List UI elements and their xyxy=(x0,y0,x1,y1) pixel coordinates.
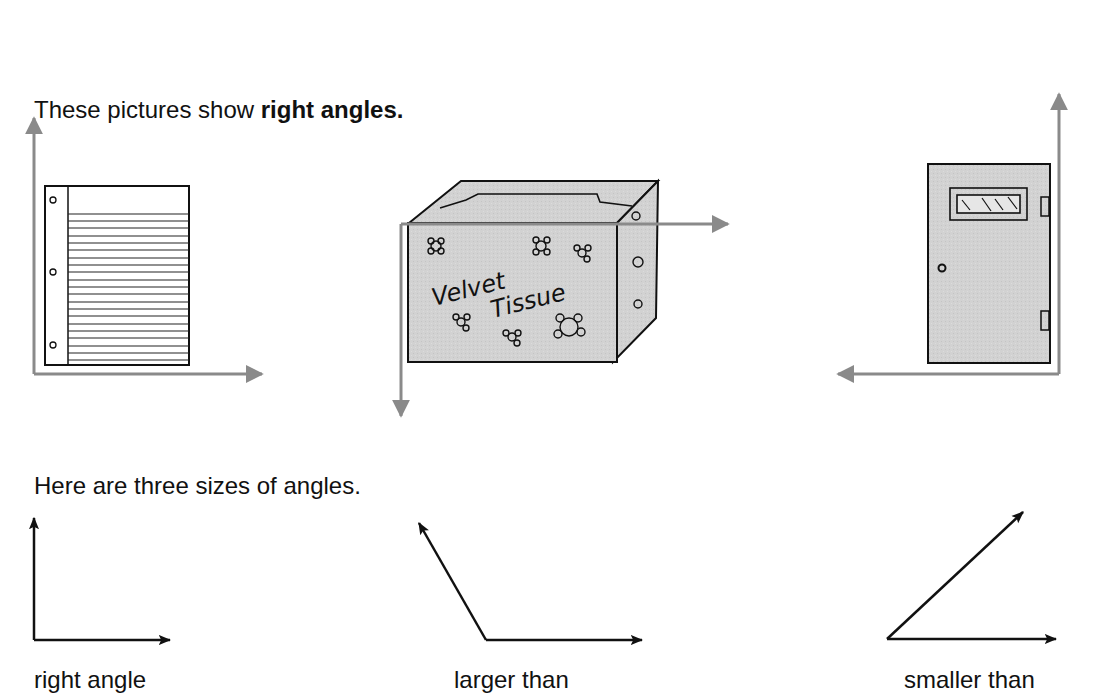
hinge-icon xyxy=(1041,311,1049,330)
hinge-icon xyxy=(1041,197,1049,216)
smaller-than-label: smaller than xyxy=(904,666,1035,694)
larger-than-label: larger than xyxy=(454,666,569,694)
right-angle-diagram xyxy=(34,518,170,640)
illustrations: Velvet Tissue xyxy=(0,0,1107,695)
smaller-angle-diagram xyxy=(887,512,1056,639)
larger-angle-diagram xyxy=(419,523,642,640)
angle-sizes-heading: Here are three sizes of angles. xyxy=(34,472,361,500)
arrow-diagonal-icon xyxy=(887,512,1023,639)
arrow-diagonal-icon xyxy=(419,523,486,640)
door-picture xyxy=(838,94,1059,374)
tissue-box-picture: Velvet Tissue xyxy=(401,181,728,416)
notebook-paper-picture xyxy=(34,118,262,374)
right-angle-label: right angle xyxy=(34,666,146,694)
